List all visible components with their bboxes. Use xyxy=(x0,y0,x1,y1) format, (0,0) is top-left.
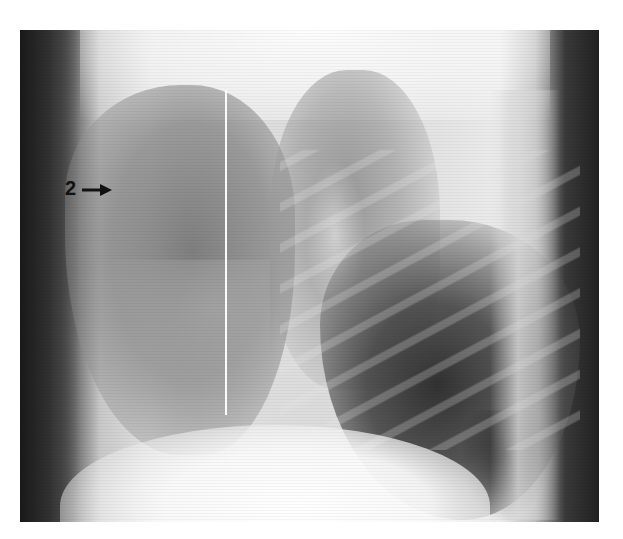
anterior-lung-opacity xyxy=(65,85,295,455)
chest-xray-image xyxy=(20,30,599,522)
posterior-costophrenic-angle xyxy=(460,410,550,520)
scan-texture xyxy=(20,30,599,522)
hilar-vessels xyxy=(305,160,365,310)
diaphragm-dome xyxy=(60,425,490,522)
soft-tissue-background xyxy=(20,30,599,522)
annotation-label-2: 2 xyxy=(65,178,112,198)
shoulder-region xyxy=(80,30,550,120)
vertical-marker-line xyxy=(225,90,227,415)
posterior-lung xyxy=(320,220,580,520)
rib-shadows xyxy=(280,150,580,450)
annotation-number: 2 xyxy=(65,178,76,198)
posterior-chest-wall xyxy=(490,90,560,520)
hilum-region xyxy=(270,70,440,390)
anterior-chest-wall xyxy=(20,30,80,522)
anterior-lung-edge xyxy=(80,260,270,420)
arrow-right-icon xyxy=(82,182,112,194)
